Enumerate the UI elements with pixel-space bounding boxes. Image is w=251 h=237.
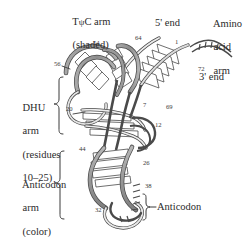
residue-number-56: 56 [54,60,61,67]
anticodon-arm-line2: arm [23,202,39,213]
amino-acid-arm-line1: Amino [213,18,242,29]
residue-number-69: 69 [166,103,173,110]
dhu-arm-line2: arm [23,125,39,136]
dhu-arm-line1: DHU [23,102,46,113]
residue-number-26: 26 [143,159,150,166]
residue-number-7: 7 [143,101,146,108]
residue-number-38: 38 [145,182,152,189]
tpsic-arm-label: TψC arm (shaded) [62,4,110,63]
residue-number-1: 1 [175,38,178,45]
residue-number-44: 44 [79,145,86,152]
anticodon-arm-label: Anticodon arm (color) [12,167,66,237]
amino-acid-arm-line2: acid [214,41,232,52]
residue-number-20: 20 [66,105,73,112]
anticodon-arm-line3: (color) [23,226,52,237]
residue-number-54: 54 [93,39,100,46]
figure-canvas: TψC arm (shaded) 5' end Amino acid arm 3… [0,0,251,237]
dhu-arm-line3: (residues [23,149,61,160]
three-prime-end-label: 3' end [199,71,224,83]
anticodon-arm-line1: Anticodon [22,179,66,190]
tpsic-arm-label-line2: (shaded) [73,39,109,50]
anticodon-brace [143,194,156,220]
residue-number-72: 72 [198,65,205,72]
residue-number-12: 12 [155,121,162,128]
anticodon-label: Anticodon [157,201,201,213]
residue-number-32: 32 [95,206,102,213]
tpsic-arm-label-line1: TψC arm [72,16,110,27]
five-prime-end-label: 5' end [155,17,180,29]
residue-number-64: 64 [135,34,142,41]
